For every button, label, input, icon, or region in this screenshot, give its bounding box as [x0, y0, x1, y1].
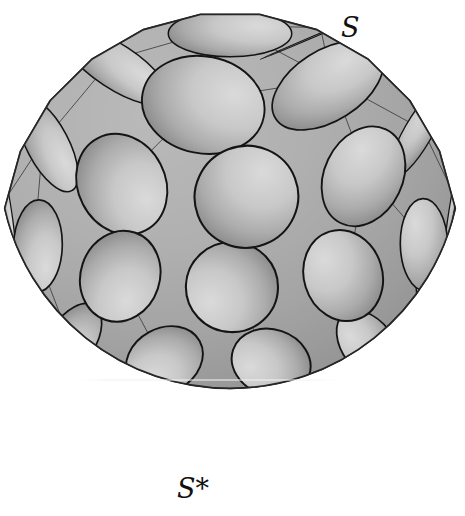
packed-circle: [338, 363, 406, 428]
triangulation-edge: [210, 450, 262, 451]
triangulation-edge: [340, 431, 352, 443]
sphere-circle-packing-figure: [0, 0, 465, 516]
packed-circle: [326, 411, 376, 448]
triangulation-edge: [352, 397, 374, 431]
packed-circle: [129, 445, 170, 463]
triangulation-edge: [85, 419, 112, 437]
packed-circle: [91, 414, 143, 451]
triangulation-edge: [296, 452, 321, 459]
packed-circle: [109, 436, 147, 455]
triangulation-edge: [237, 464, 268, 466]
triangulation-edge: [210, 451, 237, 466]
packed-circle: [269, 380, 346, 443]
triangulation-edge: [85, 419, 128, 447]
scanline-artifact: [70, 379, 350, 380]
packed-circle: [155, 452, 197, 468]
triangulation-edge: [88, 398, 117, 435]
triangulation-edge: [14, 306, 44, 373]
triangulation-edge: [70, 341, 87, 397]
dual-sphere-label-s-star: S*: [177, 473, 209, 504]
triangulation-edge: [352, 415, 381, 431]
triangulation-edge: [117, 434, 160, 445]
packed-circle: [182, 436, 237, 462]
packed-circle: [246, 456, 289, 471]
packed-circle: [321, 432, 359, 453]
triangulation-edge: [44, 373, 88, 397]
triangulation-edge: [117, 434, 128, 447]
packed-circle: [64, 400, 107, 436]
triangulation-edge: [231, 414, 308, 420]
triangulation-edge: [231, 420, 262, 450]
packed-circle: [197, 396, 265, 439]
triangulation-edge: [262, 443, 311, 450]
triangulation-edge: [262, 414, 308, 450]
packed-circle: [22, 342, 68, 402]
triangulation-edge: [160, 445, 176, 461]
triangulation-edge: [160, 445, 210, 450]
triangulation-edge: [340, 415, 381, 443]
triangulation-edge: [267, 459, 296, 464]
triangulation-edge: [176, 461, 206, 465]
triangulation-edge: [85, 419, 117, 434]
triangulation-edge: [308, 414, 310, 444]
packed-circle: [300, 442, 340, 461]
packed-circle: [55, 363, 123, 428]
triangulation-edge: [117, 434, 150, 455]
packed-circle: [116, 381, 193, 443]
packed-circle: [184, 458, 227, 471]
packed-circle: [359, 396, 400, 431]
triangulation-edge: [149, 455, 175, 461]
triangulation-edge: [267, 443, 310, 464]
triangulation-edge: [373, 372, 417, 397]
packed-circle: [275, 450, 317, 467]
packed-circle: [392, 341, 438, 401]
triangulation-edge: [381, 372, 417, 415]
figure-root: S S*: [0, 0, 465, 516]
triangulation-edge: [417, 315, 437, 372]
triangulation-edge: [237, 450, 262, 466]
triangulation-edge: [205, 465, 236, 466]
triangulation-edge: [308, 397, 373, 414]
triangulation-edge: [320, 443, 339, 452]
packed-circle: [282, 424, 338, 460]
triangulation-edge: [311, 431, 352, 443]
packed-circle: [234, 434, 290, 463]
packed-circle: [132, 427, 188, 461]
triangulation-edge: [154, 414, 160, 445]
triangulation-edge: [296, 443, 311, 459]
triangulation-edge: [262, 450, 267, 464]
sphere-label-s: S: [341, 12, 360, 43]
triangulation-edge: [205, 451, 209, 466]
packed-circle: [93, 424, 131, 449]
triangulation-edge: [210, 420, 231, 451]
packed-circle: [0, 265, 37, 346]
triangulation-edge: [371, 348, 374, 398]
triangulation-edge: [320, 431, 351, 452]
packed-circle: [215, 460, 257, 470]
triangulation-edge: [88, 398, 154, 414]
triangulation-edge: [154, 414, 231, 420]
triangulation-edge: [128, 447, 150, 455]
